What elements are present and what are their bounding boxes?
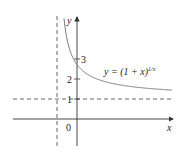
- chart: y x 0 1 2 3 y = (1 + x)1/x: [0, 0, 184, 154]
- tick-label-2: 2: [67, 74, 72, 85]
- tick-label-1: 1: [67, 94, 72, 105]
- origin-label: 0: [66, 122, 71, 133]
- equation-label: y = (1 + x)1/x: [103, 66, 156, 78]
- equation-main: y = (1 + x): [103, 66, 149, 78]
- y-axis-label: y: [66, 15, 72, 26]
- x-axis-label: x: [166, 122, 172, 133]
- equation-exponent: 1/x: [148, 66, 156, 72]
- tick-label-3: 3: [81, 54, 86, 65]
